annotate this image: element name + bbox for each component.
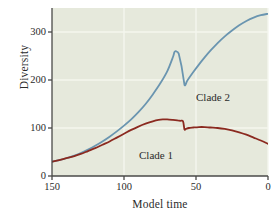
x-tick-label: 50: [176, 182, 216, 193]
x-axis-tick-labels: 150 100 50 0: [0, 182, 279, 196]
y-tick-label: 100: [20, 123, 46, 134]
x-tick-label: 150: [32, 182, 72, 193]
x-axis-title: Model time: [52, 198, 268, 210]
y-axis-title: Diversity: [18, 12, 30, 122]
x-tick-label: 0: [248, 182, 279, 193]
series-label-clade-1: Clade 1: [139, 150, 173, 161]
series-label-clade-2: Clade 2: [196, 92, 230, 103]
diversity-model-time-chart: 0 100 200 300 150 100 50 0 Diversity Mod…: [0, 0, 279, 218]
y-tick-label: 0: [20, 171, 46, 182]
x-tick-label: 100: [104, 182, 144, 193]
